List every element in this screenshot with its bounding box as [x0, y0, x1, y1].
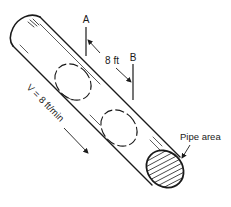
pipe-area-label: Pipe area: [180, 131, 221, 142]
section-label-b: B: [130, 52, 137, 63]
section-label-a: A: [83, 14, 90, 25]
pipe-diagram: A B 8 ft V = 8 ft/min Pipe area: [0, 0, 231, 207]
pipe-highlight: [150, 140, 160, 150]
pipe-highlight: [40, 24, 100, 84]
pipe-end-hatched: [139, 140, 191, 199]
pipe-highlight: [20, 45, 28, 53]
pipe-area-arrow: [182, 145, 190, 158]
pipe-highlight: [33, 19, 39, 25]
distance-label: 8 ft: [105, 55, 119, 66]
pipe-highlight: [90, 115, 100, 125]
velocity-label: V = 8 ft/min: [25, 82, 67, 124]
velocity-arrow: [64, 128, 88, 153]
distance-arrow-to-b: [116, 68, 131, 82]
pipe-upper-edge: [40, 17, 180, 157]
cross-section-b: [94, 103, 145, 154]
cross-section-a: [48, 57, 99, 108]
pipe-highlight: [30, 20, 37, 26]
pipe-top-cap: [10, 15, 40, 46]
distance-arrow-to-a: [88, 40, 100, 53]
